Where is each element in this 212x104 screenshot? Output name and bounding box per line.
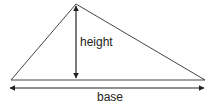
height-label: height xyxy=(80,35,113,49)
base-label: base xyxy=(97,90,123,104)
triangle-diagram: height base xyxy=(0,0,212,104)
